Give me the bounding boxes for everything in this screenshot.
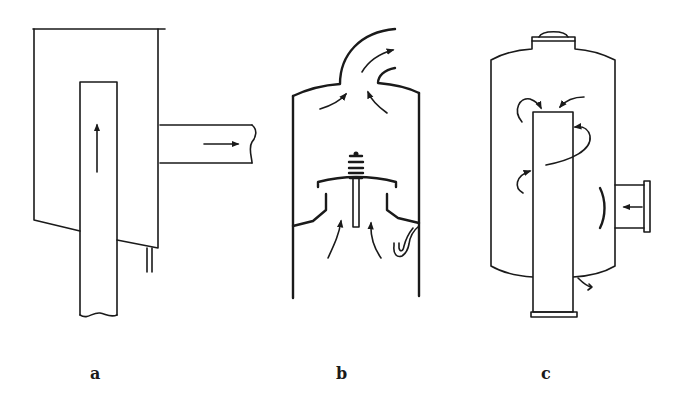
panel-a-drawing xyxy=(33,29,256,317)
standpipe xyxy=(533,112,573,312)
valve-seat-right xyxy=(387,194,419,223)
valve-stem xyxy=(353,178,359,227)
panel-c-drawing xyxy=(491,32,650,317)
side-inlet-flange xyxy=(644,181,650,232)
diagram-canvas xyxy=(0,0,674,405)
arrow-converge-left-icon xyxy=(320,94,346,109)
drain-pipe xyxy=(147,248,152,272)
vessel-left-wall xyxy=(34,29,80,231)
panel-label-a: a xyxy=(90,364,100,383)
vessel-left-side xyxy=(491,41,533,277)
vessel-right-side xyxy=(573,41,615,277)
inlet-pipe-break xyxy=(80,313,117,317)
cap-flange xyxy=(532,37,575,41)
outlet-pipe-break xyxy=(250,125,256,163)
bottom-drain xyxy=(578,278,592,290)
panel-b-drawing xyxy=(293,29,419,298)
arrow-inflow-left-icon xyxy=(328,221,341,258)
inlet-pipe xyxy=(80,82,117,315)
outlet-outer-curve xyxy=(293,29,395,96)
baffle xyxy=(600,188,605,228)
panel-label-c: c xyxy=(541,364,551,383)
arrow-swirl-low-icon xyxy=(517,171,530,193)
arrow-inflow-right-icon xyxy=(371,223,381,258)
standpipe-flange xyxy=(531,312,577,317)
panel-label-b: b xyxy=(336,364,347,383)
drain-trap xyxy=(394,226,419,257)
arrow-swirl-top-right-icon xyxy=(560,97,584,107)
outlet-inner-curve xyxy=(378,68,419,93)
vessel-right-wall xyxy=(117,29,158,248)
valve-seat-left xyxy=(293,194,326,226)
spring-icon xyxy=(349,152,363,179)
arrow-converge-right-icon xyxy=(368,92,387,113)
